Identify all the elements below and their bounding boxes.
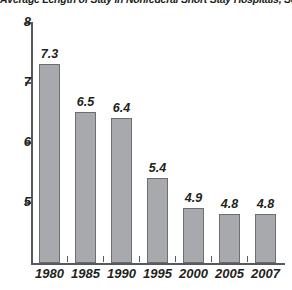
y-tick-label: 6 [9,135,31,148]
bar-1980[interactable] [39,64,60,263]
x-tick-mark [139,256,140,262]
y-tick-6: 6 [0,142,31,144]
x-tick-mark [103,256,104,262]
bar-value-1990: 6.4 [100,102,143,115]
bar-1995[interactable] [147,178,168,263]
bar-2000[interactable] [183,208,204,263]
x-tick-mark [175,256,176,262]
bar-2005[interactable] [219,214,240,263]
x-label-2007: 2007 [244,266,287,281]
y-tick-label: 5 [9,195,31,208]
x-tick-mark [67,256,68,262]
y-tick-8: 8 [0,22,31,24]
x-axis-line [31,263,285,265]
y-tick-label: 7 [9,75,31,88]
bar-value-1995: 5.4 [136,162,179,175]
bar-1990[interactable] [111,118,132,263]
bar-value-2007: 4.8 [244,198,287,211]
y-tick-5: 5 [0,202,31,204]
y-tick-7: 7 [0,82,31,84]
bar-1985[interactable] [75,112,96,263]
y-tick-label: 8 [9,15,31,28]
plot-area: 8 7 6 5 7.3 1980 6.5 1985 6.4 199 [0,0,292,290]
bar-2007[interactable] [255,214,276,263]
bar-chart-figure: Average Length of Stay in Nonfederal Sho… [0,0,292,290]
x-tick-mark [247,256,248,262]
x-tick-mark [211,256,212,262]
bar-value-1980: 7.3 [28,48,71,61]
